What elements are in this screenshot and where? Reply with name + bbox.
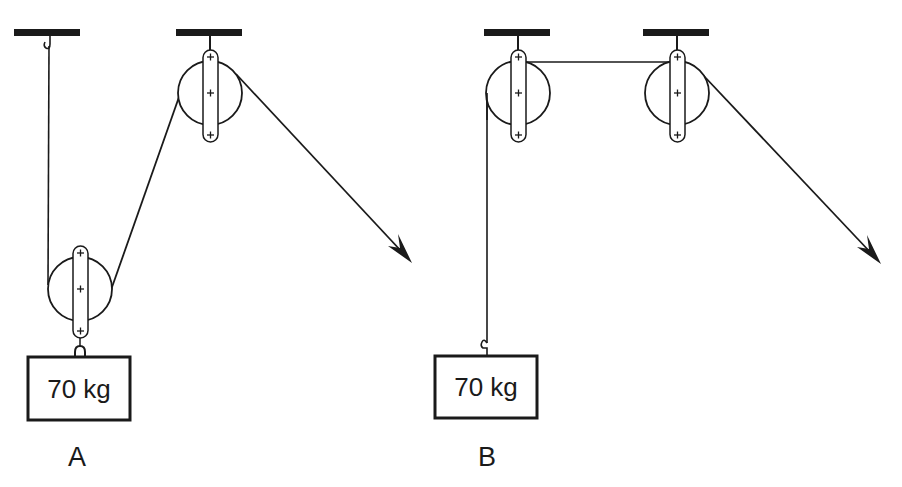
rope-a-pull — [236, 74, 402, 252]
ceiling-bar-a-right — [176, 29, 242, 36]
ceiling-bar-b-right — [643, 29, 709, 36]
system-label-a: A — [68, 442, 86, 472]
rope-a-diagonal-up — [111, 97, 179, 290]
mass-hook-icon — [481, 340, 487, 356]
ceiling-bar-a-left — [14, 29, 80, 36]
pull-arrow-icon-a — [388, 234, 412, 263]
shackle-icon — [75, 346, 85, 357]
mass-label-a: 70 kg — [47, 374, 111, 404]
system-b: 70 kg B — [435, 29, 881, 472]
mass-label-b: 70 kg — [454, 372, 518, 402]
system-label-b: B — [478, 442, 496, 472]
rope-a-left-vertical — [48, 46, 49, 285]
ceiling-bar-b-left — [484, 29, 550, 36]
rope-b-pull — [703, 75, 871, 253]
pull-arrow-icon-b — [857, 235, 881, 264]
pulley-diagram: 70 kg A 70 kg B — [0, 0, 902, 487]
system-a: 70 kg A — [14, 29, 412, 472]
